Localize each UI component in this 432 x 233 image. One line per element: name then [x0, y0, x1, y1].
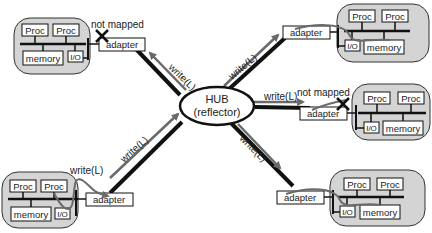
io-label: I/O: [342, 208, 353, 217]
memory-label: memory: [26, 53, 61, 64]
write-label-mid-right: write(L): [263, 91, 297, 102]
node-mid-right: Proc Proc I/O memory adapter not mapped: [297, 84, 430, 140]
node-top-right: Proc Proc I/O memory adapter: [283, 4, 429, 62]
write-label-source: write(L): [69, 165, 103, 176]
node-top-left: Proc Proc memory I/O adapter not mapped: [14, 18, 145, 74]
proc-label: Proc: [367, 93, 387, 104]
adapter-label: adapter: [106, 39, 138, 50]
proc-label: Proc: [401, 93, 421, 104]
adapter-label: adapter: [93, 194, 125, 205]
io-label: I/O: [57, 210, 68, 219]
not-mapped-label: not mapped: [297, 87, 350, 98]
proc-label: Proc: [44, 181, 64, 192]
proc-label: Proc: [352, 11, 372, 22]
not-mapped-label: not mapped: [91, 19, 144, 30]
hub-subtitle: (reflector): [193, 106, 240, 118]
memory-label: memory: [386, 123, 421, 134]
io-label: I/O: [347, 42, 358, 51]
node-bottom-left: Proc Proc memory I/O adapter: [2, 172, 133, 228]
adapter-label: adapter: [307, 108, 339, 119]
memory-label: memory: [363, 207, 398, 218]
proc-label: Proc: [13, 181, 33, 192]
proc-label: Proc: [25, 25, 45, 36]
write-label-bottom-right: write(L): [237, 132, 269, 164]
io-label: I/O: [366, 124, 377, 133]
proc-label: Proc: [347, 179, 367, 190]
proc-label: Proc: [380, 179, 400, 190]
hub: HUB (reflector): [180, 87, 254, 125]
node-bottom-right: Proc Proc I/O memory adapter: [277, 170, 425, 226]
adapter-label: adapter: [290, 27, 322, 38]
io-label: I/O: [70, 53, 81, 62]
reflective-memory-diagram: HUB (reflector) write(L) write(L) write(…: [0, 0, 432, 233]
hub-title: HUB: [205, 93, 228, 105]
memory-label: memory: [367, 42, 402, 53]
memory-label: memory: [14, 209, 49, 220]
proc-label: Proc: [56, 25, 76, 36]
proc-label: Proc: [385, 11, 405, 22]
